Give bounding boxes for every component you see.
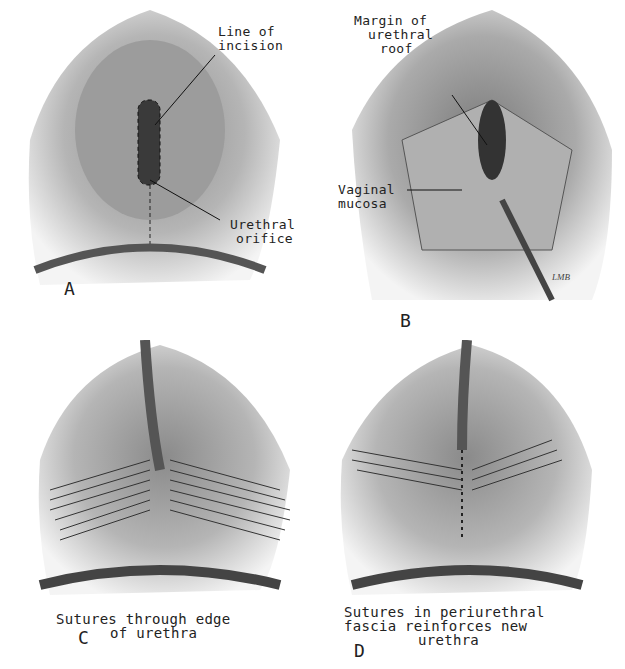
svg-text:LMB: LMB: [551, 272, 571, 282]
label-line: Margin of: [354, 14, 433, 28]
caption-line: Sutures in periurethral: [344, 605, 545, 619]
panel-letter-d: D: [354, 640, 365, 661]
caption-line: fascia reinforces new: [344, 619, 545, 633]
label-line: Urethral: [230, 218, 295, 232]
caption-d: Sutures in periurethral fascia reinforce…: [344, 605, 545, 647]
label-line: incision: [218, 39, 283, 53]
label-line: Line of: [218, 25, 283, 39]
label-line-of-incision: Line of incision: [218, 25, 283, 53]
panel-d: Sutures in periurethral fascia reinforce…: [312, 340, 625, 669]
label-line: urethral: [354, 28, 433, 42]
label-line: roof: [354, 42, 433, 56]
label-vaginal-mucosa: Vaginal mucosa: [338, 183, 395, 211]
caption-line: urethra: [344, 633, 545, 647]
panel-c: Sutures through edge of urethra C: [0, 340, 312, 669]
label-line: orifice: [230, 232, 295, 246]
label-line: mucosa: [338, 197, 395, 211]
label-urethral-orifice: Urethral orifice: [230, 218, 295, 246]
label-line: Vaginal: [338, 183, 395, 197]
panel-letter-b: B: [400, 310, 411, 331]
panel-letter-c: C: [78, 627, 89, 648]
panel-a: Line of incision Urethral orifice A: [0, 0, 312, 310]
panel-b: LMB Margin of urethral roof Vaginal muco…: [312, 0, 625, 330]
label-margin-of-urethral-roof: Margin of urethral roof: [354, 14, 433, 56]
panel-letter-a: A: [64, 278, 75, 299]
caption-line: Sutures through edge: [56, 612, 231, 626]
